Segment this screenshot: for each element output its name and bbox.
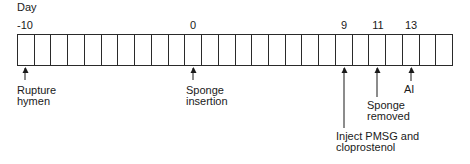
arrow-up-icon bbox=[344, 68, 345, 128]
day-cell bbox=[252, 35, 269, 65]
day-cell bbox=[353, 35, 370, 65]
day-cell bbox=[102, 35, 119, 65]
day-cell bbox=[369, 35, 386, 65]
day-label-0: 0 bbox=[190, 19, 196, 32]
day-cell bbox=[219, 35, 236, 65]
day-label-minus-10: -10 bbox=[17, 19, 33, 32]
day-grid bbox=[17, 34, 453, 66]
day-cell bbox=[51, 35, 68, 65]
day-cell bbox=[302, 35, 319, 65]
day-label-11: 11 bbox=[372, 19, 383, 32]
day-cell bbox=[85, 35, 102, 65]
day-cell bbox=[319, 35, 336, 65]
day-cell bbox=[35, 35, 52, 65]
day-cell bbox=[152, 35, 169, 65]
day-label-13: 13 bbox=[405, 19, 417, 32]
arrow-up-icon bbox=[377, 68, 378, 97]
day-cell bbox=[185, 35, 202, 65]
day-cell bbox=[403, 35, 420, 65]
day-cell bbox=[420, 35, 437, 65]
day-cell bbox=[135, 35, 152, 65]
day-cell bbox=[169, 35, 186, 65]
day-cell bbox=[118, 35, 135, 65]
event-inject-pmsg: Inject PMSG and cloprostenol bbox=[336, 131, 419, 153]
arrow-up-icon bbox=[25, 68, 26, 80]
day-cell bbox=[18, 35, 35, 65]
day-cell bbox=[286, 35, 303, 65]
day-cell bbox=[68, 35, 85, 65]
arrow-up-icon bbox=[411, 68, 412, 81]
day-cell bbox=[236, 35, 253, 65]
event-sponge-removed: Sponge removed bbox=[367, 100, 410, 122]
event-rupture-hymen: Rupture hymen bbox=[17, 85, 56, 107]
event-ai: AI bbox=[404, 84, 414, 95]
day-cell bbox=[436, 35, 452, 65]
event-sponge-insertion: Sponge insertion bbox=[186, 85, 228, 107]
day-cell bbox=[386, 35, 403, 65]
day-label-9: 9 bbox=[341, 19, 347, 32]
day-cell bbox=[202, 35, 219, 65]
day-cell bbox=[336, 35, 353, 65]
arrow-up-icon bbox=[193, 68, 194, 80]
day-cell bbox=[269, 35, 286, 65]
axis-title: Day bbox=[17, 1, 37, 14]
